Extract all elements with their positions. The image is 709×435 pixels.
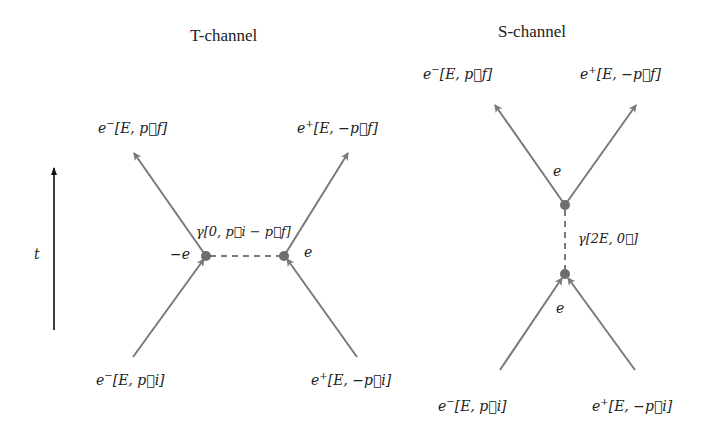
t-out-left-line: [134, 153, 206, 256]
t-vertex-right-label: e: [304, 244, 312, 260]
s-vertex-top: [560, 200, 570, 210]
s-channel-title: S-channel: [498, 22, 566, 42]
s-in-left-line: [500, 278, 562, 370]
t-out-right-label: e+[E, −p⃗f]: [297, 118, 378, 136]
t-vertex-left: [201, 251, 211, 261]
s-out-left-label: e−[E, p⃗f]: [423, 64, 492, 82]
s-in-right-line: [568, 278, 635, 370]
s-out-right-label: e+[E, −p⃗f]: [580, 64, 661, 82]
t-in-right-label: e+[E, −p⃗i]: [311, 370, 391, 388]
s-out-right-line: [565, 105, 636, 205]
s-vertex-bottom: [560, 269, 570, 279]
t-vertex-right: [279, 251, 289, 261]
t-in-right-line: [287, 259, 357, 357]
t-vertex-left-label: −e: [170, 246, 190, 262]
t-channel-diagram: [133, 153, 357, 357]
s-in-right-label: e+[E, −p⃗i]: [592, 396, 672, 414]
t-in-left-line: [133, 259, 204, 357]
time-axis-label: t: [34, 246, 40, 262]
t-channel-title: T-channel: [190, 26, 257, 46]
s-photon-label: γ[2E, 0⃗]: [578, 231, 638, 246]
t-in-left-label: e−[E, p⃗i]: [96, 370, 165, 388]
s-vertex-top-label: e: [553, 163, 561, 179]
s-out-left-line: [495, 105, 565, 205]
t-out-right-line: [284, 153, 348, 256]
t-photon-label: γ[0, p⃗i − p⃗f]: [196, 224, 291, 239]
t-out-left-label: e−[E, p⃗f]: [98, 118, 167, 136]
s-in-left-label: e−[E, p⃗i]: [438, 396, 507, 414]
s-vertex-bottom-label: e: [556, 300, 564, 316]
